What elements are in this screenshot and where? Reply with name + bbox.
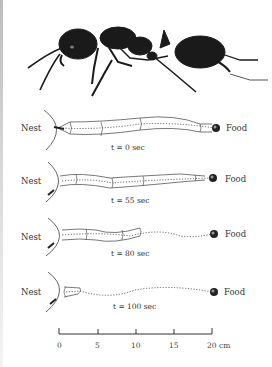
time-label-3: t = 80 sec (111, 249, 149, 258)
food-label-4: Food (224, 287, 246, 297)
nest-label-4: Nest (21, 287, 42, 297)
scale-tick-10: 10 (131, 341, 141, 350)
scale-tick-5: 5 (95, 341, 100, 350)
scale-tick-20: 20 cm (207, 341, 230, 350)
food-label-2: Food (225, 174, 247, 184)
food-label-3: Food (225, 229, 247, 239)
time-label-1: t = 0 sec (111, 143, 145, 152)
ant-foraging-diagram: Nest Food t = 0 sec Nest Food t = 55 sec… (0, 0, 272, 367)
scale-tick-15: 15 (169, 341, 179, 350)
food-label-1: Food (226, 123, 248, 133)
nest-label-1: Nest (21, 123, 42, 133)
scale-tick-0: 0 (57, 341, 62, 350)
time-label-2: t = 55 sec (111, 196, 149, 205)
nest-label-3: Nest (21, 232, 42, 242)
nest-label-2: Nest (21, 176, 42, 186)
ant-illustration (28, 27, 268, 96)
time-label-4: t = 100 sec (113, 302, 156, 311)
scale-bar (59, 328, 212, 334)
